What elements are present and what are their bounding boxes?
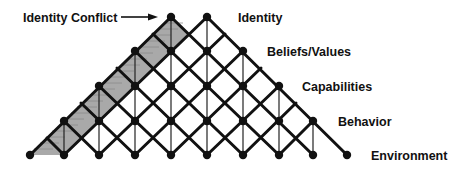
diagonal-lattice [30,17,347,155]
level-label-environment: Environment [371,149,448,163]
level-label-beliefs-values: Beliefs/Values [267,45,351,59]
right-arrow-icon [121,14,158,21]
level-label-behavior: Behavior [338,115,392,129]
level-label-identity: Identity [238,11,282,25]
identity-conflict-shading [30,17,189,155]
level-label-capabilities: Capabilities [302,80,372,94]
identity-conflict-label: Identity Conflict [23,11,118,25]
logical-levels-diagram: Identity Conflict Identity Beliefs/Value… [0,0,462,175]
